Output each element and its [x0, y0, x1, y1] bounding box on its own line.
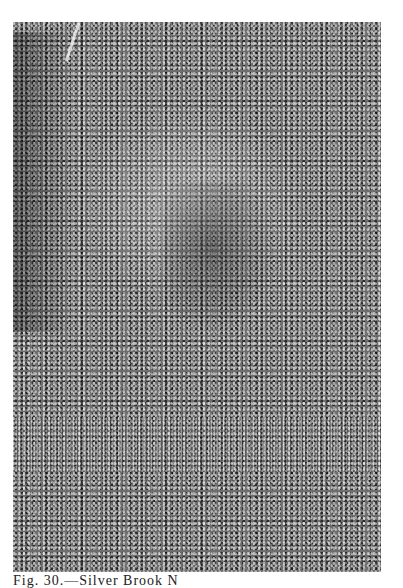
- figure-caption: Fig. 30.—Silver Brook N: [13, 574, 393, 588]
- micrograph-photo: [13, 22, 381, 572]
- dark-vein-region: [163, 182, 283, 342]
- banded-zone: [13, 417, 381, 472]
- dark-left-region: [13, 32, 73, 332]
